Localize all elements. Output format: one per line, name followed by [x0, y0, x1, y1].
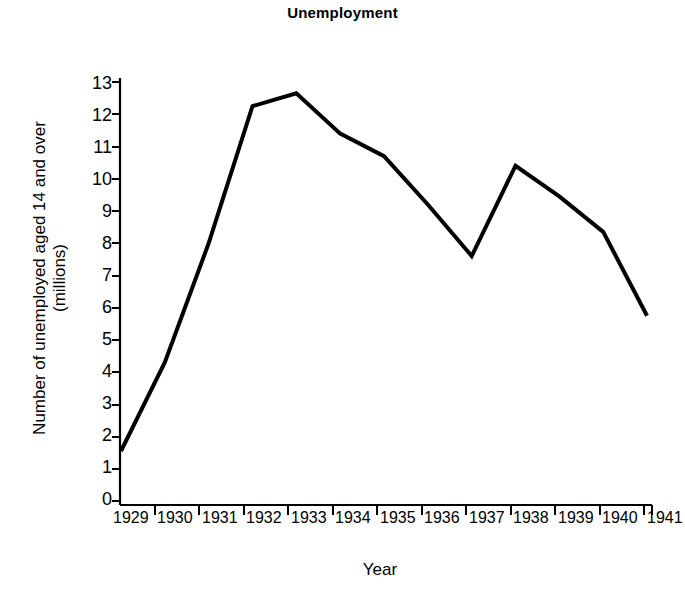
data-series-line [121, 93, 647, 451]
x-axis-ticks [155, 505, 652, 515]
chart-figure: Unemployment Number of unemployed aged 1… [0, 0, 685, 601]
plot-area [0, 0, 685, 601]
y-axis-ticks [112, 82, 120, 501]
